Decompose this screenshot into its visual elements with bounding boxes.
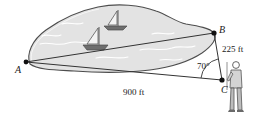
vertex-dot-c	[219, 77, 224, 82]
measurement-label-bc: 225 ft	[222, 45, 243, 54]
vertex-label-c: C	[221, 85, 228, 95]
vertex-label-b: B	[219, 25, 225, 35]
vertex-dot-a	[24, 60, 29, 65]
side-bc-line	[214, 33, 222, 80]
lake-survey-triangle-diagram: A B C 225 ft 900 ft 70°	[0, 0, 268, 116]
angle-label-c: 70°	[197, 62, 210, 71]
measurement-label-ac: 900 ft	[123, 88, 144, 97]
diagram-canvas	[0, 0, 268, 116]
vertex-dot-b	[211, 30, 216, 35]
vertex-label-a: A	[15, 65, 21, 75]
lake-shape	[29, 5, 215, 72]
surveyor-person-figure	[227, 62, 244, 112]
